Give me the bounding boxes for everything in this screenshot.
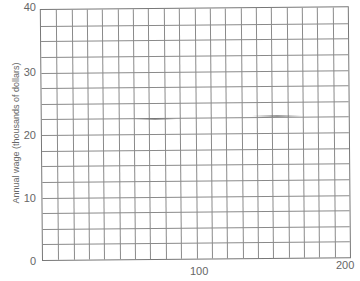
scan-artifact bbox=[134, 118, 176, 120]
y-tick-40: 40 bbox=[10, 1, 36, 13]
scan-artifact bbox=[252, 115, 302, 117]
x-tick-100: 100 bbox=[190, 265, 208, 277]
y-tick-0: 0 bbox=[10, 255, 36, 267]
plot-grid bbox=[40, 6, 351, 261]
y-tick-10: 10 bbox=[10, 192, 36, 204]
x-tick-200: 200 bbox=[336, 259, 354, 271]
y-tick-30: 30 bbox=[10, 66, 36, 78]
y-tick-20: 20 bbox=[10, 129, 36, 141]
chart: Annual wage (thousands of dollars) 40 30… bbox=[0, 0, 360, 281]
